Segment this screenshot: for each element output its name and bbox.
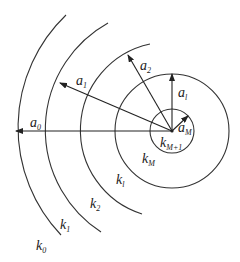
- arc-a0: [18, 15, 66, 235]
- center-point: [170, 129, 173, 132]
- label-kl: kl: [116, 172, 125, 189]
- arc-a1: [45, 23, 108, 232]
- label-a2: a2: [140, 58, 151, 75]
- label-aM: aM: [178, 120, 193, 137]
- label-k1: k1: [60, 217, 70, 234]
- label-kM1: kM+1: [160, 135, 182, 152]
- label-al: al: [178, 85, 188, 102]
- label-a1: a1: [76, 73, 87, 90]
- layered-sphere-diagram: a0 a1 a2 al aM k0 k1 k2 kl kM kM+1: [0, 0, 240, 262]
- label-k2: k2: [90, 196, 100, 213]
- label-kM: kM: [142, 151, 156, 168]
- label-k0: k0: [36, 238, 46, 255]
- label-a0: a0: [30, 115, 41, 132]
